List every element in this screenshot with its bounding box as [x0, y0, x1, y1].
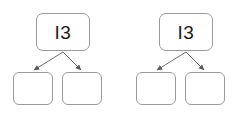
tree-right-child-left-node[interactable] — [136, 72, 176, 105]
tree-left-child-right-node[interactable] — [62, 72, 102, 105]
tree-left-child-left-node[interactable] — [13, 72, 53, 105]
tree-left-root-node[interactable]: I3 — [36, 13, 90, 51]
tree-right-root-node[interactable]: I3 — [159, 13, 213, 51]
edge-root-to-left-child — [34, 52, 63, 70]
binary-tree-left: I3 — [0, 0, 123, 115]
edge-root-to-left-child — [157, 52, 186, 70]
tree-right-child-right-node[interactable] — [185, 72, 225, 105]
tree-left-root-label: I3 — [55, 23, 72, 42]
edge-root-to-right-child — [186, 52, 204, 70]
diagram-canvas: I3 I3 — [0, 0, 246, 115]
edge-root-to-right-child — [63, 52, 81, 70]
binary-tree-right: I3 — [123, 0, 246, 115]
tree-right-root-label: I3 — [178, 23, 195, 42]
